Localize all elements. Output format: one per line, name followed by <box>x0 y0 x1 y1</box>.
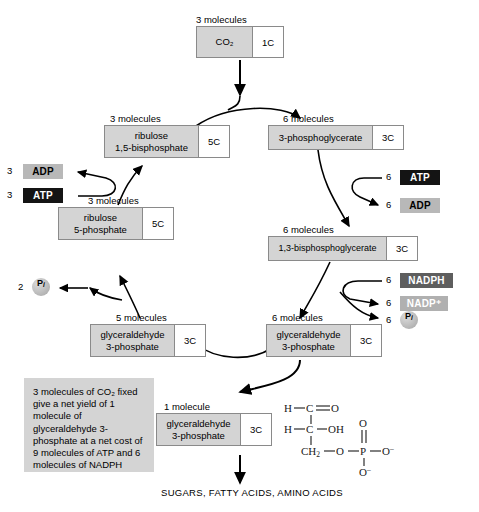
node-co2-label: CO₂ <box>197 27 252 57</box>
node-pga-label: 3-phosphoglycerate <box>269 126 372 149</box>
caption-g3p-product: 1 molecule <box>164 401 210 412</box>
node-g3p-left: glyceraldehyde 3-phosphate 3C <box>90 324 206 357</box>
arrow-pga-to-bpg <box>318 150 349 226</box>
node-ribulose-5-phosphate: ribulose 5-phosphate 5C <box>58 207 174 240</box>
arrow-bpg-to-g3p <box>300 262 330 318</box>
node-ribulose-1-5-bisphosphate: ribulose 1,5-bisphosphate 5C <box>104 125 230 158</box>
caption-ru5p: 3 molecules <box>88 195 139 206</box>
caption-co2: 3 molecules <box>196 14 247 25</box>
coefficient-pi-right: 6 <box>386 314 391 325</box>
arrow-nadph-nadp <box>343 281 382 304</box>
node-g3p-right: glyceraldehyde 3-phosphate 3C <box>266 324 382 357</box>
chip-atp-right: ATP <box>400 170 440 185</box>
atom-c2: C <box>306 423 313 435</box>
node-co2-carbons: 1C <box>252 27 283 57</box>
arrow-atp-adp-right <box>352 178 382 205</box>
caption-bpg: 6 molecules <box>283 224 334 235</box>
atom-h2: H <box>284 423 292 435</box>
atom-o-minus-bottom: O– <box>359 465 371 476</box>
coefficient-pi-left: 2 <box>18 281 23 292</box>
node-ru5p-carbons: 5C <box>142 208 173 239</box>
pi-left-subscript: i <box>43 281 45 288</box>
arrow-atp-adp-left <box>78 172 115 196</box>
node-3-phosphoglycerate: 3-phosphoglycerate 3C <box>268 125 404 150</box>
atom-o-double: O <box>359 417 367 429</box>
arrow-pi-release-right <box>340 292 378 318</box>
chip-pi-right: Pi <box>400 311 418 329</box>
node-rubp-carbons: 5C <box>198 126 229 157</box>
pi-right-subscript: i <box>411 314 413 321</box>
atom-o-minus-right: O– <box>382 444 394 457</box>
coefficient-nadp-right: 6 <box>386 297 391 308</box>
coefficient-adp-right: 6 <box>386 199 391 210</box>
chip-pi-left: Pi <box>32 278 50 296</box>
node-bpg-carbons: 3C <box>386 237 417 260</box>
chip-nadph-right: NADPH <box>400 273 453 288</box>
chip-adp-right: ADP <box>400 198 440 213</box>
node-g3p-product: glyceraldehyde 3-phosphate 3C <box>156 413 272 446</box>
chip-atp-left: ATP <box>23 188 63 203</box>
summary-note: 3 molecules of CO₂ fixed give a net yiel… <box>24 378 154 472</box>
arrow-pi-release-left <box>90 288 122 300</box>
node-ru5p-label: ribulose 5-phosphate <box>59 208 142 239</box>
atom-o-ester: O <box>336 445 344 457</box>
node-g3p-right-carbons: 3C <box>350 325 381 356</box>
coefficient-atp-left: 3 <box>7 189 12 200</box>
node-g3p-left-carbons: 3C <box>174 325 205 356</box>
node-g3p-product-carbons: 3C <box>240 414 271 445</box>
coefficient-nadph-right: 6 <box>386 274 391 285</box>
node-bpg-label: 1,3-bisphosphoglycerate <box>269 237 386 260</box>
atom-h1: H <box>284 402 292 414</box>
chip-nadp-right: NADP⁺ <box>400 296 448 311</box>
caption-g3p-left: 5 molecules <box>116 312 167 323</box>
atom-c1: C <box>306 402 313 414</box>
product-label: SUGARS, FATTY ACIDS, AMINO ACIDS <box>161 487 343 498</box>
caption-pga: 6 molecules <box>283 113 334 124</box>
coefficient-atp-right: 6 <box>386 171 391 182</box>
calvin-cycle-diagram: 3 molecules CO₂ 1C 3 molecules ribulose … <box>0 0 479 512</box>
caption-g3p-right: 6 molecules <box>272 312 323 323</box>
atom-p: P <box>360 445 366 457</box>
node-rubp-label: ribulose 1,5-bisphosphate <box>105 126 198 157</box>
arrow-g3p-right-to-left <box>196 344 272 357</box>
node-co2: CO₂ 1C <box>196 26 284 58</box>
coefficient-adp-left: 3 <box>7 165 12 176</box>
atom-o1: O <box>331 402 339 414</box>
node-g3p-right-label: glyceraldehyde 3-phosphate <box>267 325 350 356</box>
caption-rubp: 3 molecules <box>110 113 161 124</box>
node-g3p-product-label: glyceraldehyde 3-phosphate <box>157 414 240 445</box>
arrow-g3p-to-product <box>240 360 300 392</box>
node-g3p-left-label: glyceraldehyde 3-phosphate <box>91 325 174 356</box>
chemical-structure-g3p: H C O H C OH CH2 O P O– <box>280 398 470 476</box>
node-pga-carbons: 3C <box>372 126 403 149</box>
arrow-co2-join <box>228 96 240 110</box>
node-1-3-bisphosphoglycerate: 1,3-bisphosphoglycerate 3C <box>268 236 418 261</box>
structure-svg: H C O H C OH CH2 O P O– <box>280 398 470 476</box>
atom-oh: OH <box>328 423 344 435</box>
atom-ch2: CH2 <box>301 445 320 459</box>
chip-adp-left: ADP <box>23 164 63 179</box>
